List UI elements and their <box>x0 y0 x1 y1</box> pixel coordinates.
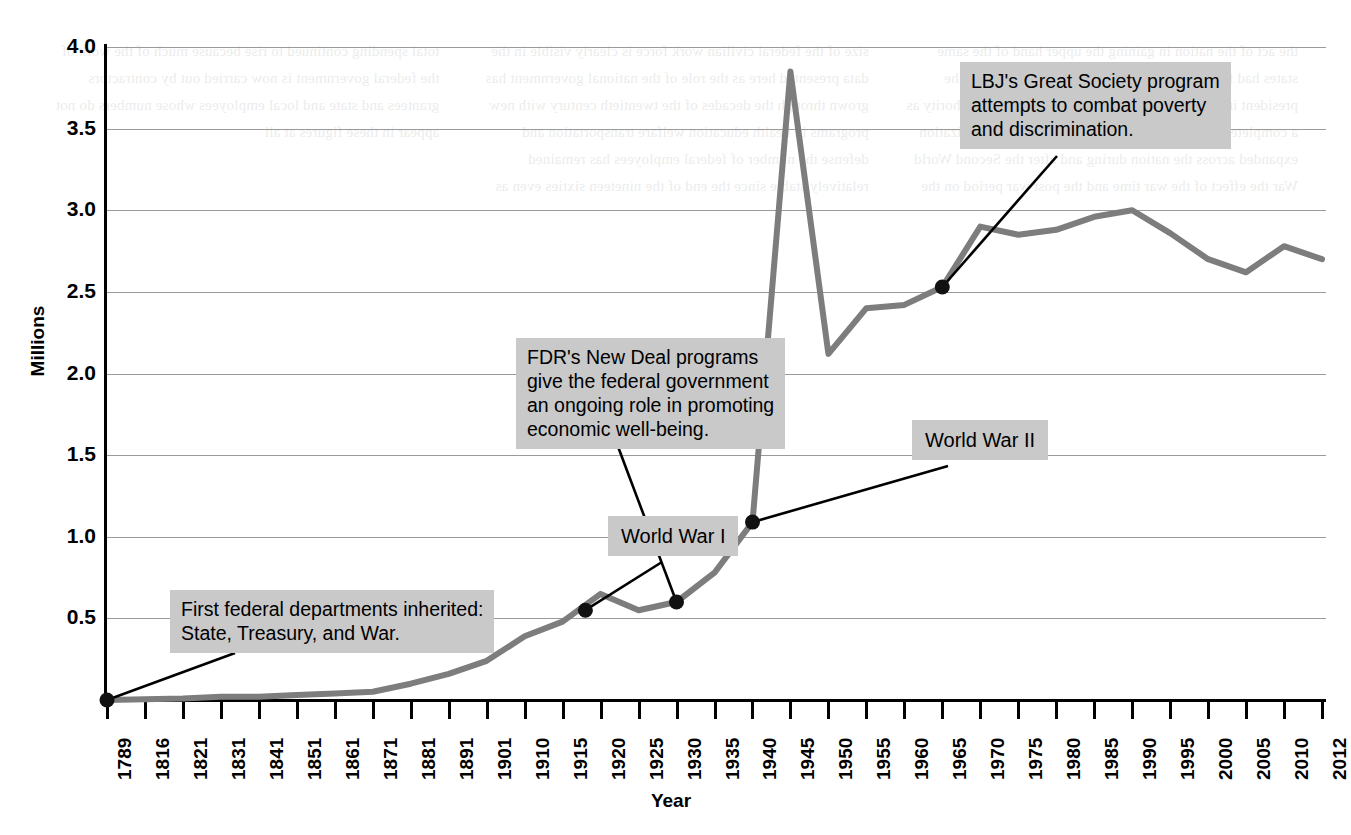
annotation-fdr-new-deal: FDR's New Deal programs give the federal… <box>516 338 785 449</box>
annotation-first-departments: First federal departments inherited: Sta… <box>170 590 494 653</box>
annotation-leader-line <box>753 466 949 522</box>
annotation-leader-line <box>107 653 235 700</box>
data-point-marker <box>100 693 115 708</box>
annotation-lbj-great-society: LBJ's Great Society program attempts to … <box>960 62 1231 149</box>
data-point-marker <box>669 595 684 610</box>
annotation-leader-line <box>942 156 1057 287</box>
data-point-marker <box>578 603 593 618</box>
annotation-world-war-2: World War II <box>912 420 1048 460</box>
data-point-marker <box>745 515 760 530</box>
data-point-marker <box>935 280 950 295</box>
annotation-world-war-1: World War I <box>608 516 738 556</box>
